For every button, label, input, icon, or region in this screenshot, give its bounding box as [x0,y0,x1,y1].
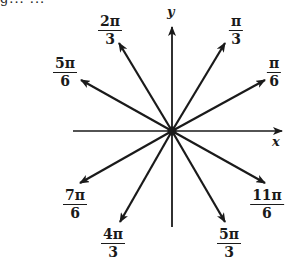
angle-label-5pi-over-6: 5π6 [53,56,77,89]
angle-denominator: 3 [105,31,115,47]
angle-denominator: 3 [224,244,234,260]
angle-numerator: 2π [98,14,122,31]
unit-circle-angle-diagram [0,0,298,271]
angle-label-pi-over-6: π6 [267,56,281,89]
angle-label-pi-over-3: π3 [229,14,243,47]
angle-numerator: 7π [63,188,87,205]
angle-ray-5pi-over-6 [81,80,172,131]
x-axis-label: x [272,134,280,149]
origin-dot [168,127,177,136]
angle-numerator: 11π [250,188,284,205]
angle-numerator: 5π [53,56,77,73]
y-axis-label: y [167,4,175,19]
angle-numerator: 5π [217,227,241,244]
angle-label-7pi-over-6: 7π6 [63,188,87,221]
angle-ray-pi-over-6 [172,80,265,131]
angle-numerator: 4π [101,227,125,244]
angle-denominator: 3 [108,244,118,260]
angle-denominator: 6 [269,73,279,89]
angle-ray-pi-over-3 [172,43,225,131]
angle-ray-2pi-over-3 [119,43,172,131]
angle-denominator: 3 [231,31,241,47]
angle-label-4pi-over-3: 4π3 [101,227,125,260]
angle-denominator: 6 [60,73,70,89]
angle-denominator: 6 [262,205,272,221]
angle-label-5pi-over-3: 5π3 [217,227,241,260]
angle-label-2pi-over-3: 2π3 [98,14,122,47]
angle-denominator: 6 [70,205,80,221]
angle-label-11pi-over-6: 11π6 [250,188,284,221]
angle-numerator: π [229,14,243,31]
angle-numerator: π [267,56,281,73]
